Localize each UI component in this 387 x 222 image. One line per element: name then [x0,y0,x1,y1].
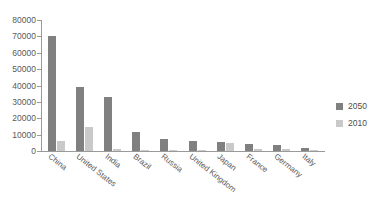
bar-chart: 0100002000030000400005000060000700008000… [0,0,387,222]
y-tick-label: 30000 [12,98,36,107]
legend-item-2010: 2010 [336,117,367,130]
y-tick-label: 0 [31,147,36,156]
bar-group [211,20,239,151]
y-tick-label: 80000 [12,16,36,25]
x-tick-label: India [103,152,122,170]
bar-2010 [141,150,149,151]
y-tick-mark [37,69,41,70]
bar-group [296,20,324,151]
bar-group [70,20,98,151]
y-tick-label: 40000 [12,81,36,90]
x-tick-label: Italy [300,152,317,168]
y-tick-mark [37,53,41,54]
bar-group [127,20,155,151]
bar-2050 [160,139,168,151]
bar-2010 [85,127,93,151]
x-tick-label: Brazil [131,152,152,171]
bar-2010 [198,150,206,151]
y-tick-label: 70000 [12,32,36,41]
chart-legend: 2050 2010 [336,100,367,134]
bar-group [183,20,211,151]
y-tick-mark [37,20,41,21]
legend-item-2050: 2050 [336,100,367,113]
x-tick-label: China [47,152,69,172]
bar-2050 [104,97,112,151]
bar-2050 [217,142,225,151]
bar-2010 [169,150,177,151]
y-tick-mark [37,151,41,152]
bar-2050 [273,145,281,151]
y-tick-label: 10000 [12,130,36,139]
y-tick-mark [37,86,41,87]
bar-2050 [245,144,253,151]
y-axis: 0100002000030000400005000060000700008000… [0,0,40,222]
bar-2010 [226,143,234,151]
x-axis: ChinaUnited StatesIndiaBrazilRussiaUnite… [42,152,342,222]
y-tick-mark [37,36,41,37]
legend-swatch-2050-icon [336,103,343,110]
bar-2050 [76,87,84,151]
legend-swatch-2010-icon [336,120,343,127]
legend-label-2050: 2050 [348,102,367,111]
x-tick-label: Russia [159,152,184,174]
y-tick-mark [37,102,41,103]
y-tick-mark [37,118,41,119]
bar-2010 [254,149,262,151]
bar-2050 [48,36,56,151]
y-tick-label: 50000 [12,65,36,74]
x-tick-label: Japan [216,152,239,173]
bar-2010 [310,150,318,151]
bar-group [268,20,296,151]
bar-2050 [132,132,140,151]
bar-group [42,20,70,151]
y-tick-label: 60000 [12,49,36,58]
bar-2010 [282,149,290,151]
y-tick-mark [37,135,41,136]
bar-2050 [189,141,197,151]
bar-group [239,20,267,151]
x-tick-label: Germany [272,152,303,179]
bar-2050 [301,148,309,151]
y-tick-label: 20000 [12,114,36,123]
plot-area [42,20,324,151]
bar-2010 [57,141,65,151]
x-tick-label: France [244,152,269,174]
x-tick-label: United Kingdom [188,152,238,194]
bar-group [98,20,126,151]
legend-label-2010: 2010 [348,119,367,128]
bar-2010 [113,149,121,151]
bar-group [155,20,183,151]
